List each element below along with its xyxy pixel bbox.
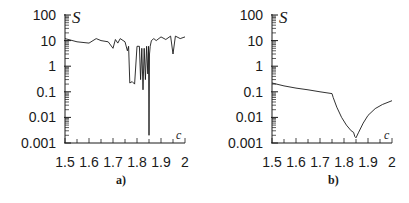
panel-b-label: b) xyxy=(328,173,339,187)
panel-a-x-label: c xyxy=(176,128,182,142)
panel-a-data-line xyxy=(65,36,185,135)
panel-a-y-tick-label: 0.01 xyxy=(29,109,56,125)
figure: 1001010.10.010.001 1.51.61.71.81.92 S c … xyxy=(0,0,409,203)
panel-a-y-tick-label: 1 xyxy=(48,58,56,74)
panel-a-x-tick-label: 1.5 xyxy=(55,154,75,170)
panel-a-x-tick-label: 2 xyxy=(181,154,189,170)
panel-a-y-axis: 1001010.10.010.001 xyxy=(21,7,71,151)
panel-a-x-tick-label: 1.7 xyxy=(103,154,123,170)
panel-b-y-tick-label: 0.1 xyxy=(244,84,264,100)
panel-b-x-tick-label: 2 xyxy=(388,154,396,170)
panel-b-x-tick-label: 1.9 xyxy=(358,154,378,170)
panel-b-chart: 1001010.10.010.001 1.51.61.71.81.92 S c … xyxy=(228,7,396,187)
panel-b-data-line xyxy=(272,83,392,138)
panel-a-y-tick-label: 10 xyxy=(40,33,56,49)
panel-b-y-label: S xyxy=(279,8,288,27)
panel-b-x-tick-label: 1.5 xyxy=(262,154,282,170)
panel-b-y-tick-label: 0.01 xyxy=(236,109,263,125)
panel-a-y-tick-label: 0.1 xyxy=(37,84,57,100)
panel-b-y-tick-label: 100 xyxy=(240,7,264,23)
panel-a-y-tick-label: 100 xyxy=(33,7,57,23)
panel-b-y-tick-label: 0.001 xyxy=(228,135,263,151)
panel-a-label: a) xyxy=(116,173,126,187)
panel-a-x-tick-label: 1.6 xyxy=(79,154,99,170)
panel-b-y-tick-label: 10 xyxy=(247,33,263,49)
panel-b-x-tick-label: 1.6 xyxy=(286,154,306,170)
panel-b-x-label: c xyxy=(384,128,390,142)
panel-a-chart: 1001010.10.010.001 1.51.61.71.81.92 S c … xyxy=(21,7,189,187)
panel-b-y-axis: 1001010.10.010.001 xyxy=(228,7,278,151)
panel-b-x-tick-label: 1.8 xyxy=(334,154,354,170)
panel-b-y-tick-label: 1 xyxy=(255,58,263,74)
panel-a-x-tick-label: 1.9 xyxy=(151,154,171,170)
panel-b-x-tick-label: 1.7 xyxy=(310,154,330,170)
panel-a-y-tick-label: 0.001 xyxy=(21,135,56,151)
panel-a-x-tick-label: 1.8 xyxy=(127,154,147,170)
panel-a-y-label: S xyxy=(72,8,81,27)
